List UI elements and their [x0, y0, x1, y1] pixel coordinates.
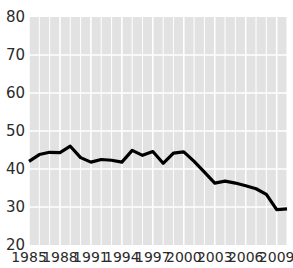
- y-axis-tick-label: 40: [6, 160, 25, 178]
- y-axis-tick-label: 30: [6, 198, 25, 216]
- chart-canvas: 80706050403020 1985198819911994199720002…: [0, 0, 293, 268]
- y-axis-tick-label: 50: [6, 122, 25, 140]
- x-axis-tick-labels: 198519881991199419972000200320062009: [11, 249, 293, 265]
- y-axis-tick-label: 70: [6, 46, 25, 64]
- x-axis-tick-label: 2009: [259, 249, 293, 265]
- line-chart: 80706050403020 1985198819911994199720002…: [0, 0, 293, 268]
- y-axis-tick-labels: 80706050403020: [6, 8, 25, 254]
- y-axis-tick-label: 60: [6, 84, 25, 102]
- y-axis-tick-label: 80: [6, 8, 25, 26]
